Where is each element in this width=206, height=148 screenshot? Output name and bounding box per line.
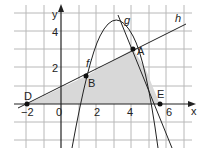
label-E: E: [157, 88, 164, 100]
label-g: g: [124, 14, 131, 26]
x-tick: 2: [94, 106, 100, 118]
x-axis-label: x: [191, 105, 197, 117]
point-E: [158, 102, 163, 107]
coordinate-diagram: A B D E f g h x y −2 0 2 4 6 2 4: [0, 0, 206, 148]
label-D: D: [24, 90, 32, 102]
y-tick: 4: [52, 26, 58, 38]
label-B: B: [88, 77, 95, 89]
x-tick: 6: [166, 106, 172, 118]
label-A: A: [137, 45, 145, 57]
y-axis-label: y: [52, 8, 58, 20]
label-h: h: [175, 12, 181, 24]
x-tick: 4: [127, 106, 133, 118]
x-tick: −2: [21, 106, 34, 118]
point-A: [131, 47, 136, 52]
x-tick: 0: [56, 106, 62, 118]
y-axis-arrow-icon: [58, 4, 64, 12]
y-tick: 2: [52, 62, 58, 74]
